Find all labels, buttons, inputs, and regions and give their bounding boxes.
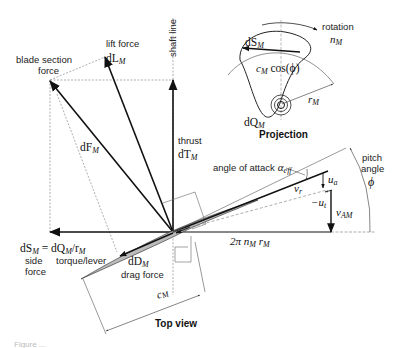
- chord-label: cM: [155, 285, 172, 302]
- ut-label: −ut: [311, 196, 327, 210]
- extension-line: [195, 242, 205, 292]
- rotation-arc: [262, 23, 317, 30]
- thrust-symbol: dTM: [178, 148, 199, 162]
- rotation-n-label: nM: [330, 33, 344, 47]
- projection-chord-cos-label: cM cos(ϕ): [256, 62, 300, 76]
- projection-radius-label: rM: [308, 93, 320, 107]
- vr-label: vr: [294, 182, 303, 196]
- pitch-line: [173, 148, 346, 232]
- shaft-line-label: shaft line: [167, 19, 178, 57]
- angle-of-attack-label: angle of attackαeff: [213, 161, 293, 175]
- lift-force-arrow: [105, 57, 173, 232]
- construction-line: [57, 94, 117, 252]
- propeller-force-diagram: shaft line: [0, 0, 395, 348]
- drag-force-arrow: [120, 233, 173, 256]
- resultant-velocity-line: [173, 171, 328, 232]
- ua-label: ua: [328, 173, 338, 187]
- vAM-label: vAM: [336, 206, 354, 220]
- lift-force-label: lift force: [106, 38, 139, 49]
- torque-lever-label: torque/lever: [56, 255, 106, 266]
- diagram-canvas: shaft line: [0, 0, 395, 348]
- dF-symbol: dFM: [80, 141, 100, 155]
- rotation-label: rotation: [322, 21, 354, 32]
- figure-caption-fragment: Figure ...: [14, 340, 46, 348]
- blade-section-force-label-1: blade section: [16, 54, 72, 65]
- angle-of-attack-arc: [306, 169, 307, 180]
- side-label: side: [25, 255, 42, 266]
- force-label: force: [25, 266, 46, 277]
- circumferential-speed-label: 2π nM rM: [230, 235, 271, 249]
- projection-dS-label: dSM: [245, 36, 265, 50]
- top-view-forces: shaft line: [50, 18, 375, 334]
- projection-dS-arrow: [243, 48, 300, 52]
- blade-section-force-label-2: force: [38, 65, 59, 76]
- side-force-equation: dSM = dQM/rM: [20, 242, 87, 256]
- top-view-label: Top view: [155, 318, 197, 329]
- right-angle-frame: [175, 236, 191, 262]
- projection-dQ-label: dQM: [244, 116, 266, 130]
- pitch-label-2: angle: [361, 163, 384, 174]
- pitch-label-1: pitch: [362, 152, 382, 163]
- drag-symbol: dDM: [128, 255, 150, 269]
- lift-symbol: dLM: [106, 52, 127, 66]
- drag-force-label: drag force: [121, 269, 164, 280]
- pitch-angle-symbol: ϕ: [368, 175, 374, 189]
- projection-label: Projection: [259, 129, 308, 140]
- extension-line: [83, 279, 106, 334]
- blade-section-force-arrow: [50, 81, 173, 232]
- thrust-label: thrust: [178, 135, 202, 146]
